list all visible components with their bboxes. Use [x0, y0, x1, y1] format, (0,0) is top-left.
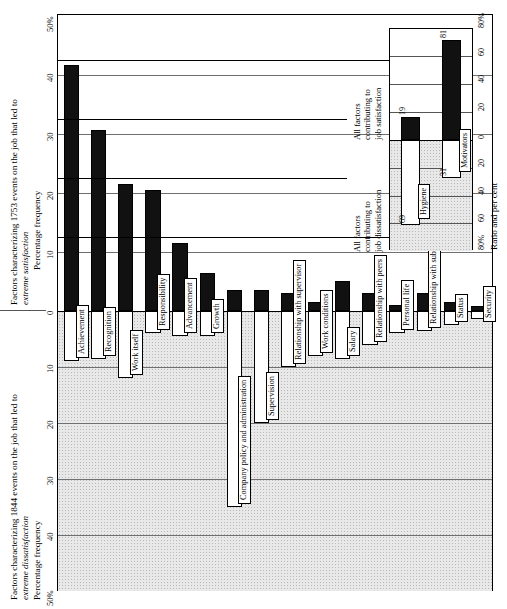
- bar-satisfaction[interactable]: [227, 290, 242, 311]
- bar-label: Personal life: [401, 280, 414, 330]
- caption-line: All factors: [352, 190, 362, 252]
- bar-label: Relationship with peers: [374, 255, 387, 342]
- upper-caption-line2: extreme satisfaction: [21, 232, 30, 305]
- bar-column[interactable]: Achievement: [64, 15, 79, 592]
- bar-column[interactable]: Relationship with supervisor: [281, 15, 296, 592]
- inset-bar-label: Hygiene: [418, 184, 430, 219]
- upper-ylabel: Percentage frequency: [33, 191, 42, 270]
- inset-tick: 80%: [478, 235, 486, 250]
- lower-caption-line2: extreme dissatisfaction: [21, 516, 30, 600]
- inset-connector-1: [57, 60, 389, 61]
- inset-tick: 20: [478, 159, 486, 167]
- bar-label: Work conditions: [320, 289, 333, 352]
- inset-bar-satisfaction[interactable]: [401, 117, 420, 140]
- caption-line: contributing to: [362, 190, 372, 252]
- bar-label: Advancement: [184, 279, 197, 334]
- lower-caption-line1: Factors characterizing 1844 events on th…: [10, 394, 19, 600]
- bar-column[interactable]: Company policy and administration: [227, 15, 242, 592]
- bar-label: Salary: [347, 326, 360, 355]
- inset-caption-dissatisfaction: All factorscontributing tojob dissatisfa…: [352, 190, 383, 252]
- bar-label: Status: [455, 294, 468, 322]
- bar-label: Supervision: [266, 372, 279, 420]
- tick-dn-10: 10: [45, 365, 55, 374]
- inset-value-satisfaction: 81: [440, 30, 448, 38]
- bar-label: Relationship with supervisor: [293, 260, 306, 364]
- inset-plot-area: Hygiene1969Motivators8131: [389, 28, 473, 250]
- inset-connector-3: [57, 178, 347, 179]
- bar-label: Recognition: [103, 307, 116, 356]
- bar-column[interactable]: Security: [471, 15, 486, 592]
- tick-up-20: 20: [45, 192, 55, 201]
- tick-dn-40: 40: [45, 533, 55, 542]
- inset-tick: 40: [478, 187, 486, 195]
- tick-dn-50: 50%: [45, 590, 55, 606]
- inset-tick: 60: [478, 48, 486, 56]
- bar-column[interactable]: Growth: [200, 15, 215, 592]
- inset-connector-2: [57, 119, 347, 120]
- tick-up-0: 0: [45, 311, 55, 315]
- bar-satisfaction[interactable]: [64, 65, 79, 311]
- bar-column[interactable]: Responsibility: [145, 15, 160, 592]
- bar-column[interactable]: Work itself: [118, 15, 133, 592]
- bar-column[interactable]: Recognition: [91, 15, 106, 592]
- inset-tick: 0: [478, 135, 486, 139]
- tick-up-40: 40: [45, 74, 55, 83]
- bar-column[interactable]: Advancement: [172, 15, 187, 592]
- inset-tick: 80%: [478, 13, 486, 28]
- lower-ylabel: Percentage frequency: [33, 521, 42, 600]
- tick-dn-20: 20: [45, 421, 55, 430]
- tick-up-10: 10: [45, 251, 55, 260]
- tick-dn-30: 30: [45, 477, 55, 486]
- bar-label: Work itself: [130, 330, 143, 375]
- inset-tick: 60: [478, 214, 486, 222]
- inset-tick: 40: [478, 75, 486, 83]
- chart-canvas: Factors characterizing 1753 events on th…: [0, 0, 507, 609]
- bar-satisfaction[interactable]: [335, 281, 350, 311]
- bar-column[interactable]: Salary: [335, 15, 350, 592]
- bar-label: Security: [483, 286, 496, 322]
- caption-line: job satisfaction: [373, 88, 383, 140]
- caption-line: contributing to: [362, 88, 372, 140]
- caption-line: All factors: [352, 88, 362, 140]
- bar-label: Responsibility: [157, 274, 170, 330]
- bar-label: Achievement: [76, 306, 89, 359]
- bar-column[interactable]: Work conditions: [308, 15, 323, 592]
- caption-divider: [0, 310, 46, 311]
- bar-column[interactable]: Supervision: [254, 15, 269, 592]
- bar-satisfaction[interactable]: [91, 130, 106, 311]
- bar-label: Growth: [211, 300, 224, 334]
- inset-tick: 20: [478, 103, 486, 111]
- inset-bar-satisfaction[interactable]: [442, 40, 461, 140]
- caption-line: job dissatisfaction: [373, 190, 383, 252]
- bar-satisfaction[interactable]: [254, 290, 269, 311]
- inset-value-dissatisfaction: 31: [440, 168, 448, 176]
- tick-up-30: 30: [45, 133, 55, 142]
- bar-label: Company policy and administration: [238, 376, 251, 504]
- tick-up-50: 50%: [45, 16, 55, 32]
- bar-satisfaction[interactable]: [118, 184, 133, 311]
- inset-value-satisfaction: 19: [399, 106, 407, 114]
- inset-caption-satisfaction: All factorscontributing tojob satisfacti…: [352, 88, 383, 140]
- upper-caption-line1: Factors characterizing 1753 events on th…: [10, 99, 19, 305]
- inset-connector-4: [57, 237, 389, 238]
- inset-axis-title: Ratio and per cent: [489, 183, 499, 250]
- inset-value-dissatisfaction: 69: [399, 215, 407, 223]
- inset-bar-label: Motivators: [459, 129, 471, 172]
